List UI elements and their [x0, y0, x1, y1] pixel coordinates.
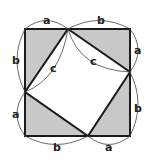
- label-right-b: b: [134, 102, 142, 115]
- label-right-a: a: [134, 44, 141, 57]
- label-left-a: a: [12, 108, 19, 121]
- label-left-b: b: [12, 54, 20, 67]
- label-top-a: a: [43, 14, 50, 27]
- label-hyp-c-top: c: [90, 55, 97, 68]
- label-hyp-c-left: c: [50, 62, 57, 75]
- pythagoras-diagram: a b a b a b a b c c: [0, 0, 150, 160]
- label-bottom-a: a: [105, 141, 112, 154]
- label-top-b: b: [97, 14, 105, 27]
- label-bottom-b: b: [53, 141, 61, 154]
